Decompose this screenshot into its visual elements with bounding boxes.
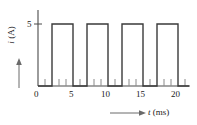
x-tick-label-15: 15 <box>136 90 145 99</box>
y-tick-label-5: 5 <box>27 20 32 29</box>
x-axis-arrow-icon <box>110 110 146 116</box>
current-vs-time-waveform-figure: 5 0 5 10 15 20 i (A) t (ms) <box>0 0 197 125</box>
y-axis-unit: (A) <box>6 26 16 39</box>
x-axis-minor-ticks <box>45 79 185 86</box>
y-axis-arrow-icon <box>16 58 22 88</box>
y-axis-caption: i (A) <box>4 12 18 58</box>
x-tick-label-10: 10 <box>101 90 110 99</box>
x-tick-label-20: 20 <box>171 90 180 99</box>
square-wave-trace <box>38 24 189 86</box>
x-axis-caption: t (ms) <box>148 108 169 117</box>
x-axis-unit: (ms) <box>153 107 170 117</box>
x-tick-label-5: 5 <box>69 90 74 99</box>
x-tick-label-0: 0 <box>34 90 39 99</box>
y-axis-variable: i <box>6 41 16 44</box>
